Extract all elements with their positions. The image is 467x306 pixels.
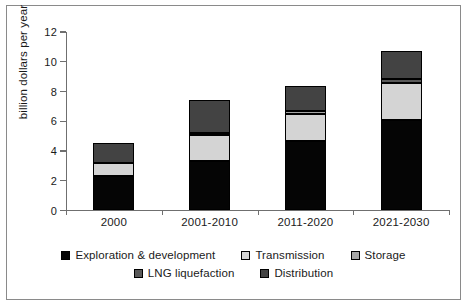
y-axis-tick-label: 4 — [51, 145, 57, 157]
bar-segment — [285, 86, 326, 111]
y-axis-tick — [60, 180, 66, 181]
bar-segment — [93, 176, 134, 211]
bar-stack — [285, 32, 326, 211]
bar-segment — [381, 51, 422, 79]
bar-segment — [285, 111, 326, 114]
bar-segment — [381, 120, 422, 211]
legend-item[interactable]: Exploration & development — [61, 249, 215, 261]
bar-stack — [189, 32, 230, 211]
y-axis-tick-label: 12 — [44, 26, 57, 38]
y-axis-tick-label: 8 — [51, 86, 57, 98]
legend-item-label: Exploration & development — [75, 249, 215, 261]
y-axis-tick — [60, 150, 66, 151]
x-axis-tick-label: 2021-2030 — [353, 216, 449, 228]
chart-legend: Exploration & developmentTransmissionSto… — [0, 246, 467, 282]
legend-swatch-icon — [260, 269, 269, 278]
y-axis-tick-label: 0 — [51, 205, 57, 217]
x-axis-tick — [66, 210, 67, 215]
y-axis-tick-label: 2 — [51, 175, 57, 187]
x-axis-tick — [353, 210, 354, 215]
y-axis-tick-label: 6 — [51, 115, 57, 127]
legend-swatch-icon — [351, 251, 360, 260]
y-axis-tick — [60, 121, 66, 122]
legend-swatch-icon — [241, 251, 250, 260]
legend-swatch-icon — [134, 269, 143, 278]
bar-segment — [189, 100, 230, 132]
legend-item[interactable]: Storage — [351, 249, 406, 261]
bar-segment — [189, 133, 230, 135]
y-axis-line — [66, 32, 67, 211]
x-axis-tick — [162, 210, 163, 215]
legend-row-secondary: LNG liquefactionDistribution — [0, 264, 467, 282]
y-axis-tick-label: 10 — [44, 56, 57, 68]
x-axis-tick-label: 2001-2010 — [162, 216, 258, 228]
bar-segment — [381, 79, 422, 83]
y-axis-title: billion dollars per year — [17, 0, 29, 147]
y-axis-tick — [60, 91, 66, 92]
bar-segment — [93, 163, 134, 176]
legend-item-label: Transmission — [255, 249, 324, 261]
chart-figure: billion dollars per year 024681012 20002… — [0, 0, 467, 306]
x-axis-tick — [449, 210, 450, 215]
bar-segment — [381, 83, 422, 120]
legend-swatch-icon — [61, 251, 70, 260]
legend-item-label: LNG liquefaction — [148, 267, 235, 279]
x-axis-tick-label: 2000 — [66, 216, 162, 228]
x-axis-tick-label: 2011-2020 — [258, 216, 354, 228]
legend-item[interactable]: Distribution — [260, 267, 333, 279]
y-axis-tick — [60, 31, 66, 32]
bar-segment — [189, 135, 230, 161]
bar-segment — [285, 141, 326, 210]
legend-item-label: Distribution — [274, 267, 333, 279]
bar-stack — [93, 32, 134, 211]
bar-stack — [381, 32, 422, 211]
y-axis-tick — [60, 61, 66, 62]
legend-item[interactable]: LNG liquefaction — [134, 267, 235, 279]
x-axis-tick — [258, 210, 259, 215]
bar-segment — [93, 143, 134, 163]
legend-item[interactable]: Transmission — [241, 249, 324, 261]
legend-item-label: Storage — [365, 249, 406, 261]
bar-segment — [285, 114, 326, 142]
bar-segment — [189, 161, 230, 211]
legend-row-primary: Exploration & developmentTransmissionSto… — [0, 246, 467, 264]
